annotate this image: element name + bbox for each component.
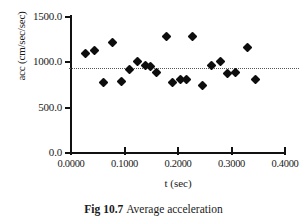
y-tick-label: 1500.0 — [0, 11, 62, 22]
data-point-marker — [188, 31, 198, 41]
x-axis-title: t (sec) — [71, 177, 285, 189]
x-tick-label: 0.3000 — [207, 158, 257, 169]
y-axis-title: acc (cm/sec/sec) — [15, 0, 27, 111]
data-point-marker — [152, 67, 162, 77]
data-point-marker — [125, 65, 135, 75]
x-tick-label: 0.1000 — [100, 158, 150, 169]
data-point-marker — [117, 77, 127, 87]
y-tick-label: 500.0 — [0, 102, 62, 113]
figure-caption-text: Average acceleration — [126, 203, 223, 215]
data-point-marker — [243, 42, 253, 52]
data-point-marker — [89, 46, 99, 56]
plot-area — [71, 17, 285, 153]
figure-caption-label: Fig 10.7 — [84, 203, 123, 215]
y-tick-label: 1000.0 — [0, 56, 62, 67]
data-point-marker — [251, 74, 261, 84]
data-point-marker — [216, 56, 226, 66]
x-tick-label: 0.4000 — [260, 158, 307, 169]
reference-line — [69, 68, 299, 69]
data-point-marker — [98, 77, 108, 87]
data-point-marker — [231, 67, 241, 77]
y-tick-label: 0.0 — [0, 147, 62, 158]
data-point-marker — [107, 38, 117, 48]
data-point-marker — [206, 61, 216, 71]
x-tick-label: 0.2000 — [153, 158, 203, 169]
x-tick-label: 0.0000 — [46, 158, 96, 169]
figure-caption: Fig 10.7 Average acceleration — [0, 203, 307, 219]
data-point-marker — [161, 31, 171, 41]
data-point-marker — [197, 81, 207, 91]
figure-container: 0.0500.01000.01500.0 0.00000.10000.20000… — [0, 0, 307, 219]
